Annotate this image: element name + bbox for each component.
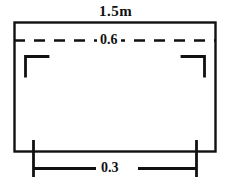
diagram-canvas (0, 0, 231, 185)
top-dimension-label: 1.5m (0, 4, 231, 19)
dimension-diagram: 1.5m 0.6 0.3 (0, 0, 231, 185)
bottom-dimension-label: 0.3 (97, 161, 123, 175)
middle-dimension-label: 0.6 (97, 33, 121, 47)
corner-bracket-top-left-icon (26, 57, 49, 77)
corner-bracket-top-right-icon (182, 57, 205, 77)
